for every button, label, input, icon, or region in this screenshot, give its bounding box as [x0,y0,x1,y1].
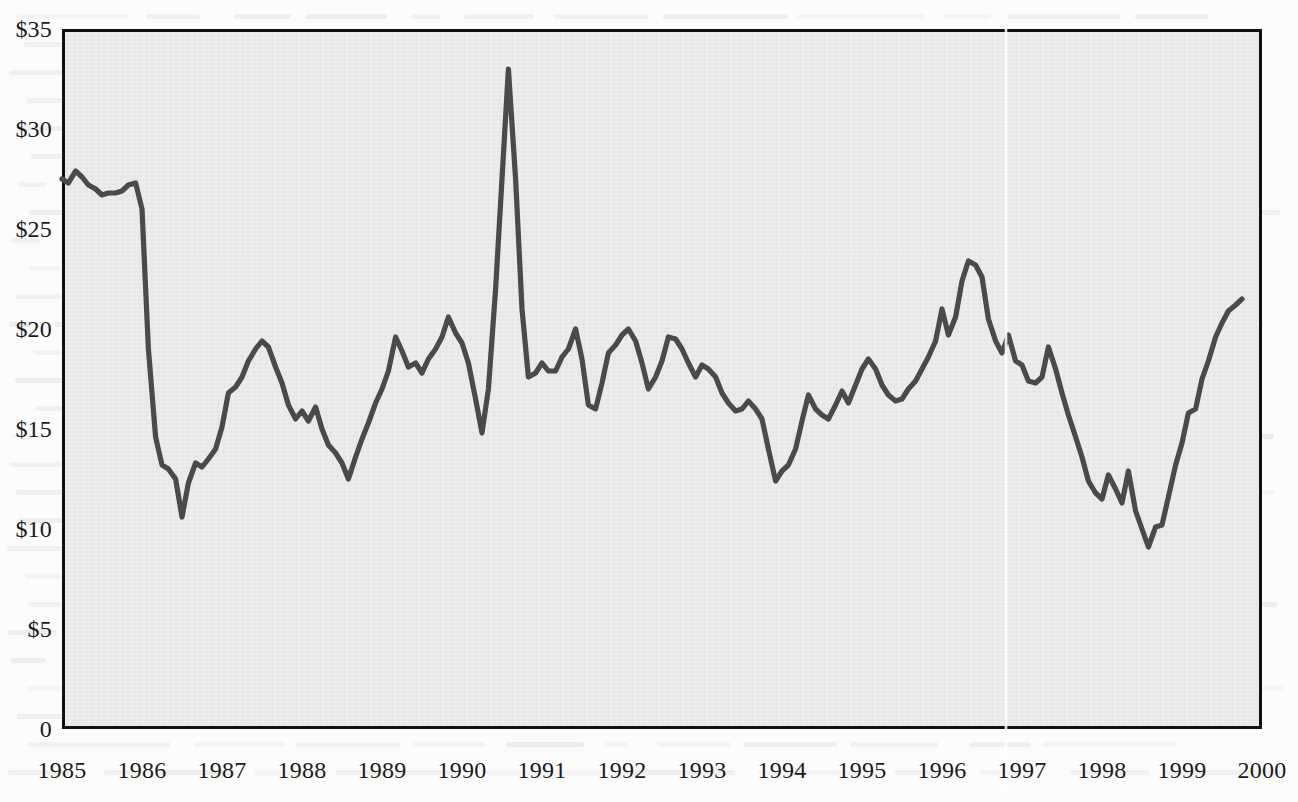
x-axis-labels: 1985198619871988198919901991199219931994… [0,744,1298,788]
x-axis-tick-label: 1997 [998,758,1047,782]
y-axis-tick-label: $25 [15,217,52,241]
y-axis-tick-label: $5 [28,617,52,641]
x-axis-tick-label: 1999 [1158,758,1207,782]
x-axis-tick-label: 1987 [198,758,247,782]
x-axis-tick-label: 1991 [518,758,567,782]
x-axis-tick-label: 1998 [1078,758,1127,782]
y-axis-tick-label: $20 [15,317,52,341]
y-axis-labels: $35$30$25$20$15$10$50 [0,0,52,802]
y-axis-tick-label: 0 [40,717,52,741]
x-axis-tick-label: 1994 [758,758,807,782]
y-axis-tick-label: $10 [15,517,52,541]
x-axis-tick-label: 1995 [838,758,887,782]
x-axis-tick-label: 1992 [598,758,647,782]
series-line-chart [62,29,1262,729]
x-axis-tick-label: 1990 [438,758,487,782]
series-path-crude-oil-price [62,69,1242,547]
x-axis-tick-label: 1985 [38,758,87,782]
x-axis-tick-label: 2000 [1238,758,1287,782]
x-axis-tick-label: 1996 [918,758,967,782]
x-axis-tick-label: 1993 [678,758,727,782]
x-axis-tick-label: 1988 [278,758,327,782]
y-axis-tick-label: $15 [15,417,52,441]
x-axis-tick-label: 1986 [118,758,167,782]
chart-root: $35$30$25$20$15$10$50 198519861987198819… [0,0,1298,802]
y-axis-tick-label: $35 [15,17,52,41]
x-axis-tick-label: 1989 [358,758,407,782]
y-axis-tick-label: $30 [15,117,52,141]
